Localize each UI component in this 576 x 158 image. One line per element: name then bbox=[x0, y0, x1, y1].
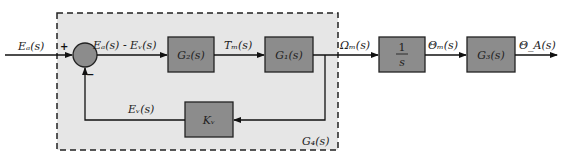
input-signal-label: Eₐ(s) bbox=[17, 40, 44, 53]
block-g3-label: G₃(s) bbox=[477, 49, 504, 62]
feedback-signal-label: Eᵥ(s) bbox=[127, 103, 154, 116]
block-diagram: G₄(s) Eₐ(s) + − Eₐ(s) - Eᵥ(s) G₂(s) Tₘ(s… bbox=[0, 0, 576, 158]
minus-sign: − bbox=[86, 69, 94, 80]
torque-signal-label: Tₘ(s) bbox=[224, 39, 252, 52]
plus-sign: + bbox=[60, 41, 68, 52]
subsystem-g4-label: G₄(s) bbox=[302, 135, 329, 148]
integrator-denominator: s bbox=[399, 56, 405, 69]
error-signal-label: Eₐ(s) - Eᵥ(s) bbox=[92, 39, 156, 52]
speed-signal-label: Ωₘ(s) bbox=[339, 39, 370, 52]
integrator-numerator: 1 bbox=[399, 41, 406, 54]
output-signal-label: Θ_A(s) bbox=[519, 39, 556, 52]
block-g2-label: G₂(s) bbox=[177, 49, 204, 62]
motor-angle-signal-label: Θₘ(s) bbox=[428, 39, 458, 52]
block-g1-label: G₁(s) bbox=[275, 49, 302, 62]
block-kv-label: Kᵥ bbox=[202, 114, 215, 127]
